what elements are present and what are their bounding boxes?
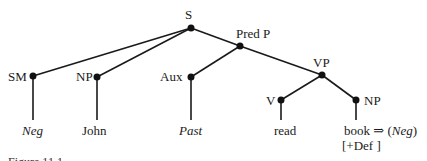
node-np2: NP (364, 94, 381, 108)
figure-caption: Figure 11.1 (8, 155, 63, 161)
node-vp: VP (313, 56, 330, 70)
feature-def: [+Def ] (342, 139, 381, 153)
node-dot-np2 (353, 97, 360, 104)
node-dot-v (278, 97, 285, 104)
node-aux: Aux (160, 70, 182, 84)
arrow-icon: ⇒ (373, 123, 384, 138)
node-dot-aux (188, 74, 195, 81)
leaf-neg-optional: Neg (392, 123, 413, 138)
leaf-john: John (82, 124, 107, 138)
node-dot-sm (30, 73, 37, 80)
node-dot-np (94, 74, 101, 81)
leaf-read: read (274, 124, 296, 138)
node-s: S (185, 8, 192, 22)
node-dot-s (188, 25, 195, 32)
leaf-book: book (344, 123, 370, 138)
leaf-book-transform: book ⇒ (Neg) (344, 124, 417, 138)
node-v: V (266, 94, 275, 108)
node-sm: SM (8, 70, 27, 84)
leaf-past: Past (179, 124, 202, 138)
node-dot-predp (237, 43, 244, 50)
node-pred-p: Pred P (236, 27, 270, 41)
node-np: NP (76, 70, 93, 84)
node-dot-vp (319, 72, 326, 79)
paren-close: ) (413, 123, 417, 138)
leaf-neg: Neg (22, 124, 43, 138)
